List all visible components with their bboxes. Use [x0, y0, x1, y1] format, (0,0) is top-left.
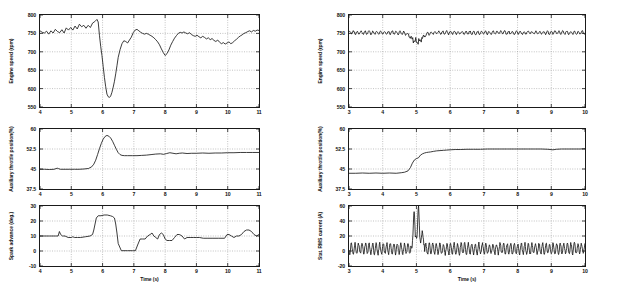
ytick-label-left-engine-speed-0: 550 — [11, 104, 36, 110]
tickmarks-left-aux-throttle — [40, 129, 259, 189]
axes-frame-right-aux-throttle — [348, 128, 586, 190]
xtick-label-left-aux-throttle-6: 10 — [225, 191, 230, 197]
ytick-label-right-engine-speed-0: 550 — [320, 104, 345, 110]
xtick-label-left-aux-throttle-7: 11 — [256, 191, 261, 197]
xtick-label-left-spark-advance-0: 4 — [39, 268, 42, 274]
xtick-label-left-engine-speed-2: 6 — [101, 109, 104, 115]
xtick-label-left-engine-speed-0: 4 — [39, 109, 42, 115]
data-series-right-engine-speed-0 — [349, 31, 584, 45]
ytick-label-right-stator-current-4: 60 — [320, 203, 345, 209]
ytick-label-right-engine-speed-1: 600 — [320, 86, 345, 92]
ytick-label-left-spark-advance-0: -10 — [11, 263, 36, 269]
xtick-label-left-aux-throttle-2: 6 — [101, 191, 104, 197]
xtick-label-left-aux-throttle-5: 9 — [195, 191, 198, 197]
xtick-label-right-engine-speed-5: 8 — [516, 109, 519, 115]
ylabel-right-engine-speed: Engine speed (rpm) — [317, 39, 323, 84]
xtick-label-left-engine-speed-4: 8 — [164, 109, 167, 115]
xtick-label-right-stator-current-7: 10 — [582, 268, 587, 274]
xtick-label-right-stator-current-3: 6 — [449, 268, 452, 274]
xtick-label-left-spark-advance-5: 9 — [195, 268, 198, 274]
ylabel-right-aux-throttle: Auxiliary throttle position(%) — [317, 126, 323, 191]
plot-area-right-aux-throttle — [349, 129, 585, 189]
xtick-label-right-engine-speed-0: 3 — [348, 109, 351, 115]
ytick-label-right-engine-speed-5: 800 — [320, 12, 345, 18]
plot-area-left-engine-speed — [40, 15, 259, 107]
tickmarks-right-aux-throttle — [349, 129, 585, 189]
xtick-label-right-aux-throttle-5: 8 — [516, 191, 519, 197]
ytick-label-left-spark-advance-2: 10 — [11, 233, 36, 239]
ytick-label-left-engine-speed-4: 750 — [11, 30, 36, 36]
ytick-label-left-aux-throttle-3: 60 — [11, 126, 36, 132]
xtick-label-right-stator-current-2: 5 — [415, 268, 418, 274]
ytick-label-right-engine-speed-4: 750 — [320, 30, 345, 36]
data-series-left-aux-throttle-0 — [40, 135, 259, 169]
xtick-label-left-engine-speed-1: 5 — [70, 109, 73, 115]
xtick-label-right-engine-speed-2: 5 — [415, 109, 418, 115]
xtick-label-left-spark-advance-1: 5 — [70, 268, 73, 274]
ytick-label-left-spark-advance-3: 20 — [11, 218, 36, 224]
axes-frame-left-engine-speed — [39, 14, 260, 108]
xtick-label-left-spark-advance-7: 11 — [256, 268, 261, 274]
xtick-label-right-stator-current-0: 3 — [348, 268, 351, 274]
ytick-label-left-spark-advance-1: 0 — [11, 248, 36, 254]
tickmarks-left-engine-speed — [40, 15, 259, 107]
ylabel-left-spark-advance: Spark advance (deg.) — [8, 212, 14, 260]
ytick-label-left-engine-speed-5: 800 — [11, 12, 36, 18]
data-series-left-spark-advance-0 — [40, 215, 259, 251]
xtick-label-left-aux-throttle-0: 4 — [39, 191, 42, 197]
xtick-label-left-spark-advance-4: 8 — [164, 268, 167, 274]
xtick-label-left-engine-speed-3: 7 — [132, 109, 135, 115]
gridlines-left-aux-throttle — [40, 129, 259, 189]
ytick-label-left-engine-speed-3: 700 — [11, 49, 36, 55]
ytick-label-left-aux-throttle-2: 52.5 — [11, 146, 36, 152]
xtick-label-right-engine-speed-7: 10 — [582, 109, 587, 115]
tickmarks-right-engine-speed — [349, 15, 585, 107]
xtick-label-left-engine-speed-7: 11 — [256, 109, 261, 115]
axes-frame-left-spark-advance — [39, 205, 260, 267]
xtick-label-left-spark-advance-3: 7 — [132, 268, 135, 274]
xlabel-right-stator-current: Time (s) — [458, 276, 476, 282]
xtick-label-right-engine-speed-3: 6 — [449, 109, 452, 115]
xtick-label-right-engine-speed-4: 7 — [482, 109, 485, 115]
axes-frame-right-engine-speed — [348, 14, 586, 108]
xtick-label-left-spark-advance-6: 10 — [225, 268, 230, 274]
xtick-label-left-aux-throttle-4: 8 — [164, 191, 167, 197]
xtick-label-right-engine-speed-1: 4 — [381, 109, 384, 115]
ytick-label-right-stator-current-0: -20 — [320, 263, 345, 269]
data-series-right-stator-current-0 — [349, 206, 585, 255]
xtick-label-left-engine-speed-6: 10 — [225, 109, 230, 115]
ytick-label-left-aux-throttle-0: 37.5 — [11, 186, 36, 192]
ytick-label-right-aux-throttle-0: 37.5 — [320, 186, 345, 192]
gridlines-right-stator-current — [349, 206, 585, 266]
figure-canvas: 5506006507007508004567891011Engine speed… — [0, 0, 617, 289]
data-series-right-aux-throttle-0 — [349, 149, 585, 174]
ytick-label-left-engine-speed-2: 650 — [11, 67, 36, 73]
xtick-label-right-stator-current-5: 8 — [516, 268, 519, 274]
ytick-label-right-aux-throttle-3: 60 — [320, 126, 345, 132]
ytick-label-left-spark-advance-4: 30 — [11, 203, 36, 209]
xtick-label-right-aux-throttle-4: 7 — [482, 191, 485, 197]
ylabel-left-engine-speed: Engine speed (rpm) — [8, 39, 14, 84]
xtick-label-right-aux-throttle-0: 3 — [348, 191, 351, 197]
plot-area-left-spark-advance — [40, 206, 259, 266]
gridlines-right-aux-throttle — [349, 129, 585, 189]
ytick-label-right-stator-current-3: 40 — [320, 218, 345, 224]
xtick-label-right-aux-throttle-2: 5 — [415, 191, 418, 197]
xtick-label-right-stator-current-1: 4 — [381, 268, 384, 274]
plot-area-left-aux-throttle — [40, 129, 259, 189]
ytick-label-left-aux-throttle-1: 45 — [11, 166, 36, 172]
axes-frame-right-stator-current — [348, 205, 586, 267]
xtick-label-right-stator-current-4: 7 — [482, 268, 485, 274]
xtick-label-left-aux-throttle-1: 5 — [70, 191, 73, 197]
plot-area-right-stator-current — [349, 206, 585, 266]
gridlines-left-engine-speed — [40, 15, 259, 107]
xlabel-left-spark-advance: Time (s) — [140, 276, 158, 282]
xtick-label-right-aux-throttle-3: 6 — [449, 191, 452, 197]
ylabel-left-aux-throttle: Auxiliary throttle position(%) — [8, 126, 14, 191]
gridlines-right-engine-speed — [349, 15, 585, 107]
ytick-label-right-aux-throttle-1: 45 — [320, 166, 345, 172]
xtick-label-left-aux-throttle-3: 7 — [132, 191, 135, 197]
ytick-label-right-engine-speed-3: 700 — [320, 49, 345, 55]
data-series-left-engine-speed-0 — [40, 19, 259, 97]
xtick-label-right-aux-throttle-7: 10 — [582, 191, 587, 197]
